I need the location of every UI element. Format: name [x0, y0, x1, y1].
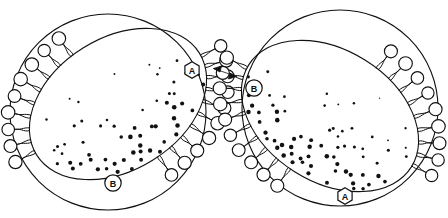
lipid-tail [378, 56, 388, 70]
marker-label: A [342, 192, 349, 202]
lipid-head [220, 51, 233, 64]
gradient-dot [162, 140, 166, 144]
marker-label: A [189, 66, 196, 76]
gradient-dot [128, 135, 133, 140]
gradient-dot [334, 169, 338, 173]
gradient-dot [61, 152, 64, 155]
gradient-dot [387, 139, 389, 141]
gradient-dot [332, 127, 335, 130]
lipid-head [232, 144, 245, 157]
marker-b: B [246, 80, 262, 96]
lipid-molecule [407, 87, 434, 105]
gradient-dot [283, 110, 286, 113]
gradient-dot [309, 164, 313, 168]
gradient-dot [336, 146, 339, 149]
gradient-dot [158, 150, 162, 154]
gradient-dot [266, 70, 269, 73]
lipid-tail [418, 128, 433, 132]
lipid-head [257, 168, 270, 181]
gradient-dot [247, 75, 250, 78]
gradient-dot [131, 150, 136, 155]
gradient-dot [405, 147, 407, 149]
gradient-dot [105, 167, 109, 171]
gradient-dot [150, 124, 154, 128]
gradient-dot [353, 145, 356, 148]
lipid-head [433, 137, 446, 150]
gradient-dot [116, 170, 120, 174]
gradient-dot [89, 158, 93, 162]
gradient-dot [361, 187, 365, 191]
gradient-dot [156, 73, 159, 76]
lipid-head [14, 72, 28, 86]
lipid-head [4, 140, 17, 153]
gradient-dot [69, 98, 71, 100]
gradient-dot [290, 152, 294, 156]
gradient-dot [307, 145, 311, 149]
gradient-dot [56, 145, 59, 148]
gradient-dot [291, 160, 295, 164]
gradient-dot [271, 104, 274, 107]
vesicle-diagram-svg: AB BA [0, 0, 448, 218]
gradient-dot [77, 101, 79, 103]
lipid-tail [26, 81, 41, 89]
lipid-molecule [52, 32, 73, 57]
lipid-head [38, 44, 50, 56]
gradient-dot [155, 99, 158, 102]
gradient-dot [113, 125, 116, 128]
gradient-dot [87, 153, 91, 157]
lipid-head [165, 169, 178, 182]
lipid-head [178, 156, 191, 169]
gradient-dot [175, 123, 180, 128]
gradient-dot [289, 145, 294, 150]
gradient-dot [176, 59, 179, 62]
lipid-molecule [271, 168, 291, 193]
lipid-molecule [412, 164, 438, 182]
gradient-dot [53, 149, 56, 152]
gradient-dot [292, 137, 296, 141]
lipid-molecule [232, 136, 258, 157]
gradient-dot [268, 94, 271, 97]
gradient-dot [309, 138, 313, 142]
gradient-dot [376, 174, 380, 178]
gradient-dot [299, 157, 303, 161]
gradient-dot [119, 135, 123, 139]
gradient-dot [191, 109, 195, 113]
diagram-figure: AB BA [0, 0, 448, 218]
gradient-dot [173, 92, 176, 95]
gradient-dot [139, 158, 143, 162]
gradient-dot [341, 130, 344, 133]
gradient-dot [172, 105, 177, 110]
gradient-dot [138, 134, 142, 138]
gradient-dot [326, 92, 329, 95]
lipid-tail [388, 67, 401, 79]
gradient-dot [138, 143, 142, 147]
gradient-dot [343, 144, 346, 147]
gradient-dot [283, 95, 286, 98]
lipid-head [1, 106, 15, 120]
gradient-dot [376, 162, 379, 165]
lipid-tail [19, 99, 34, 105]
lipid-head [214, 40, 226, 52]
lipid-molecule [1, 106, 30, 120]
gradient-dot [141, 109, 144, 112]
lipid-molecule [419, 137, 446, 150]
lipid-head [432, 154, 444, 166]
gradient-dot [351, 127, 354, 130]
gradient-dot [63, 143, 66, 146]
gradient-dot [56, 162, 59, 165]
gradient-dot [362, 155, 365, 158]
gradient-dot [79, 162, 83, 166]
gradient-dot [328, 129, 331, 132]
gradient-dot [273, 139, 277, 143]
lipid-molecule [170, 146, 192, 169]
gradient-dot [258, 120, 262, 124]
lipid-molecule [8, 90, 35, 105]
lipid-tail [390, 68, 402, 81]
gradient-dot [122, 158, 126, 162]
gradient-dot [275, 110, 279, 114]
gradient-dot [148, 64, 150, 66]
dot-gradient-field [246, 70, 408, 190]
gradient-dot [82, 141, 85, 144]
gradient-dot [174, 132, 178, 136]
gradient-dot [106, 119, 109, 122]
